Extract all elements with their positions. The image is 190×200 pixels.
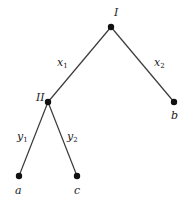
edge-label-x1: x1: [57, 56, 68, 70]
node-b: [171, 99, 177, 105]
edge-label-y1: y1: [16, 130, 28, 144]
node-I: [108, 24, 114, 30]
node-label-II: II: [35, 91, 45, 104]
node-label-b: b: [171, 109, 178, 122]
edge-label-x2: x2: [154, 56, 165, 70]
node-II: [45, 99, 51, 105]
node-c: [74, 173, 80, 179]
node-label-I: I: [113, 6, 119, 19]
edge-label-y2: y2: [66, 130, 78, 144]
node-label-c: c: [74, 184, 80, 197]
game-tree-diagram: I II b a c x1 x2 y1 y2: [0, 0, 190, 200]
node-labels: I II b a c: [15, 6, 178, 197]
node-label-a: a: [15, 184, 22, 197]
node-a: [16, 173, 22, 179]
